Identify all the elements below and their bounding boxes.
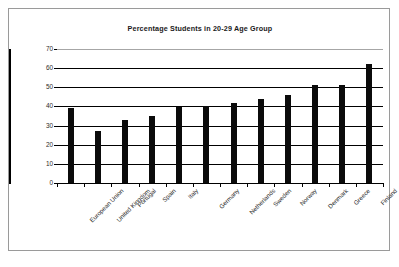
y-axis-label-40: 40 bbox=[13, 102, 53, 109]
x-axis-label-greece: Greece bbox=[352, 187, 371, 206]
y-axis-label-10: 10 bbox=[13, 160, 53, 167]
x-tick-10 bbox=[329, 183, 330, 187]
x-axis-label-norway: Norway bbox=[298, 187, 318, 207]
y-axis-label-70: 70 bbox=[13, 45, 53, 52]
x-tick-7 bbox=[247, 183, 248, 187]
x-axis-label-spain: Spain bbox=[161, 187, 177, 203]
x-axis-label-italy: Italy bbox=[187, 187, 200, 200]
x-tick-9 bbox=[302, 183, 303, 187]
x-tick-8 bbox=[274, 183, 275, 187]
x-tick-2 bbox=[111, 183, 112, 187]
x-axis-label-finland: Finland bbox=[379, 187, 398, 206]
bar-norway bbox=[285, 95, 291, 183]
y-axis-labels-group: 010203040506070 bbox=[9, 9, 53, 252]
y-axis-label-60: 60 bbox=[13, 64, 53, 71]
x-tick-3 bbox=[139, 183, 140, 187]
chart-figure-frame: Percentage Students in 20-29 Age Group 0… bbox=[8, 8, 390, 251]
x-axis-labels-group: European UnionUnited KingdomPortugalSpai… bbox=[57, 187, 383, 251]
bar-italy bbox=[176, 107, 182, 183]
bar-sweden bbox=[258, 99, 264, 183]
x-tick-1 bbox=[84, 183, 85, 187]
x-tick-0 bbox=[57, 183, 58, 187]
bar-germany bbox=[203, 106, 209, 183]
y-axis-label-20: 20 bbox=[13, 141, 53, 148]
bar-greece bbox=[339, 85, 345, 183]
bar-denmark bbox=[312, 85, 318, 183]
bar-finland bbox=[366, 64, 372, 183]
bar-portugal bbox=[122, 120, 128, 183]
bar-netherlands bbox=[231, 103, 237, 183]
y-axis-label-0: 0 bbox=[13, 179, 53, 186]
plot-area bbox=[57, 49, 383, 183]
y-axis-label-30: 30 bbox=[13, 122, 53, 129]
bar-european-union bbox=[68, 108, 74, 183]
x-tick-11 bbox=[356, 183, 357, 187]
x-axis-label-denmark: Denmark bbox=[326, 187, 349, 210]
x-tick-4 bbox=[166, 183, 167, 187]
bar-spain bbox=[149, 116, 155, 183]
x-tick-6 bbox=[220, 183, 221, 187]
x-axis-label-germany: Germany bbox=[218, 187, 241, 210]
y-axis-label-50: 50 bbox=[13, 83, 53, 90]
x-tick-12 bbox=[383, 183, 384, 187]
bar-united-kingdom bbox=[95, 131, 101, 183]
